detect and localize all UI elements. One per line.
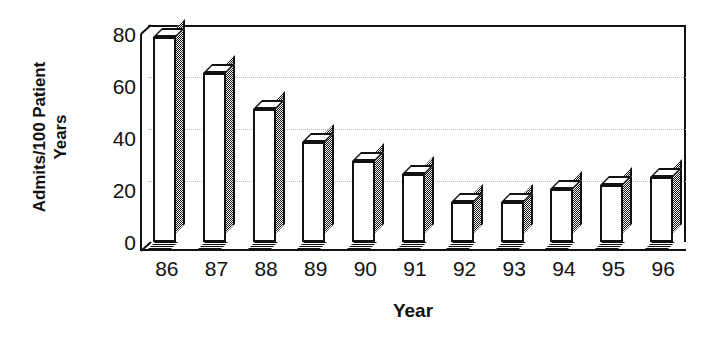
x-axis-tick-label: 94 [552,258,575,279]
x-axis-tick-label: 95 [602,258,625,279]
plot-area [140,25,686,251]
bar-side-face [524,184,533,233]
bar [501,202,524,242]
bar-front-face [402,174,425,242]
bar [352,161,375,242]
bar [302,142,325,242]
bar-front-face [650,177,673,242]
bar-front-face [550,189,573,242]
y-axis-tick-label: 20 [92,180,136,201]
bar [451,202,474,242]
x-axis-tick-label: 92 [453,258,476,279]
bar-front-face [501,202,524,242]
x-axis-tick-label: 86 [155,258,178,279]
x-axis-title: Year [140,300,686,322]
x-axis-tick-label: 87 [205,258,228,279]
y-axis-title-line-1: Admits/100 Patient [30,62,49,212]
y-axis-tick-label: 0 [92,232,136,253]
bar-front-face [302,142,325,242]
bar-front-face [203,73,226,242]
x-axis-tick-label: 91 [403,258,426,279]
bar-side-face [226,55,235,233]
chart-figure: Admits/100 Patient Years 020406080 86878… [0,0,714,342]
bar-front-face [451,202,474,242]
y-axis-tick-label: 60 [92,76,136,97]
bar [253,109,276,242]
x-axis-tick-label: 89 [304,258,327,279]
bar-front-face [352,161,375,242]
x-axis-tick-labels: 8687888990919293949596 [140,258,686,288]
bar-front-face [253,109,276,242]
y-axis-tick-label: 80 [92,24,136,45]
x-axis-tick-label: 88 [254,258,277,279]
x-axis-tick-label: 93 [503,258,526,279]
bar [153,37,176,242]
bar-front-face [153,37,176,242]
x-axis-tick-label: 96 [651,258,674,279]
y-axis-title: Admits/100 Patient Years [2,18,98,256]
bar-side-face [276,91,285,233]
y-axis-title-line-2: Years [50,62,71,212]
bar [650,177,673,242]
bar-front-face [600,185,623,242]
y-axis-tick-labels: 020406080 [88,0,136,342]
bar [600,185,623,242]
bar [550,189,573,242]
bar [402,174,425,242]
y-axis-line [140,34,142,251]
bar [203,73,226,242]
x-axis-tick-label: 90 [354,258,377,279]
y-axis-tick-label: 40 [92,128,136,149]
bar-side-face [176,19,185,233]
